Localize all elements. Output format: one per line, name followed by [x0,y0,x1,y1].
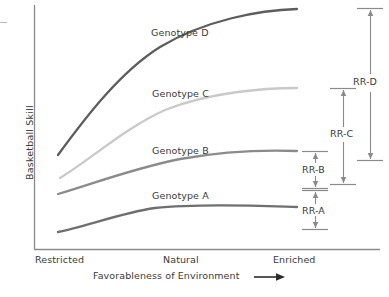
right-arrow-icon [254,272,286,282]
series-label-genotype-d: Genotype D [151,27,209,38]
curve-genotype-a [58,205,297,232]
series-label-genotype-a: Genotype A [152,190,209,201]
annotation-rr-d: RR-D [352,76,378,87]
series-label-genotype-b: Genotype B [152,145,209,156]
annotation-rr-c: RR-C [329,128,354,139]
annotation-rr-b: RR-B [301,164,326,175]
curve-genotype-c [60,88,297,178]
y-axis-label-wrapper: Basketball Skill [0,0,30,250]
curve-genotype-b [58,151,297,194]
x-tick-label-natural: Natural [163,254,199,265]
x-tick-label-restricted: Restricted [35,254,84,265]
x-tick-label-enriched: Enriched [273,254,316,265]
chart-figure: Basketball Skill Genotype D Genotype C G… [0,0,389,297]
x-axis-title: Favorableness of Environment [93,270,240,281]
annotation-rr-a: RR-A [301,205,326,216]
y-axis-label: Basketball Skill [24,105,35,180]
series-label-genotype-c: Genotype C [152,88,209,99]
